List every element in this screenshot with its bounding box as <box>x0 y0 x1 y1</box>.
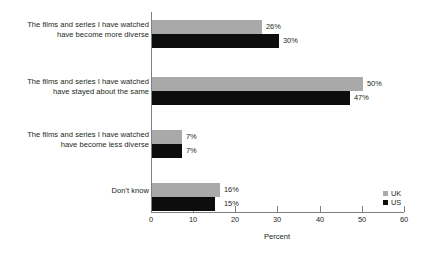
bar-value-uk-2: 7% <box>186 132 197 141</box>
x-tick-label-60: 60 <box>400 215 408 224</box>
x-tick-30 <box>277 206 278 212</box>
bar-us-3[interactable] <box>152 197 215 211</box>
category-label-0-line-0: The films and series I have watched <box>4 20 149 30</box>
legend-label-us: US <box>391 198 401 207</box>
bar-value-us-1: 47% <box>354 93 369 102</box>
category-label-1: The films and series I have watched have… <box>4 77 149 97</box>
x-tick-label-50: 50 <box>358 215 366 224</box>
category-label-3-line-0: Don't know <box>4 186 149 196</box>
x-tick-label-30: 30 <box>273 215 281 224</box>
legend-swatch-uk-icon <box>383 191 388 196</box>
bar-us-2[interactable] <box>152 144 182 158</box>
x-tick-40 <box>320 206 321 212</box>
x-tick-60 <box>404 206 405 212</box>
legend-item-uk[interactable]: UK <box>383 189 401 198</box>
category-label-2-line-0: The films and series I have watched <box>4 130 149 140</box>
bar-uk-3[interactable] <box>152 183 220 197</box>
category-label-2: The films and series I have watched have… <box>4 130 149 150</box>
category-label-2-line-1: have become less diverse <box>4 140 149 150</box>
bar-us-1[interactable] <box>152 91 350 105</box>
bar-us-0[interactable] <box>152 34 279 48</box>
plot-area: 0 10 20 30 40 50 60 Percent 26% 30% 50% … <box>151 0 432 260</box>
bar-value-uk-3: 16% <box>224 185 239 194</box>
category-label-0-line-1: have become more diverse <box>4 30 149 40</box>
category-label-1-line-0: The films and series I have watched <box>4 77 149 87</box>
bar-uk-0[interactable] <box>152 20 262 34</box>
x-tick-label-20: 20 <box>231 215 239 224</box>
x-tick-label-10: 10 <box>189 215 197 224</box>
x-tick-50 <box>362 206 363 212</box>
x-tick-label-40: 40 <box>316 215 324 224</box>
bar-value-uk-1: 50% <box>367 79 382 88</box>
x-axis-line <box>151 212 404 213</box>
category-label-3: Don't know <box>4 186 149 196</box>
legend-swatch-us-icon <box>383 200 388 205</box>
legend-item-us[interactable]: US <box>383 198 401 207</box>
bar-chart: The films and series I have watched have… <box>0 0 432 260</box>
bar-value-us-2: 7% <box>186 146 197 155</box>
bar-uk-1[interactable] <box>152 77 363 91</box>
legend-label-uk: UK <box>391 189 401 198</box>
bar-value-uk-0: 26% <box>266 22 281 31</box>
x-axis-title: Percent <box>264 232 290 241</box>
category-label-0: The films and series I have watched have… <box>4 20 149 40</box>
bar-value-us-0: 30% <box>283 36 298 45</box>
x-tick-label-0: 0 <box>149 215 153 224</box>
legend: UK US <box>383 189 401 207</box>
bar-uk-2[interactable] <box>152 130 182 144</box>
bar-value-us-3: 15% <box>224 199 239 208</box>
category-label-1-line-1: have stayed about the same <box>4 87 149 97</box>
